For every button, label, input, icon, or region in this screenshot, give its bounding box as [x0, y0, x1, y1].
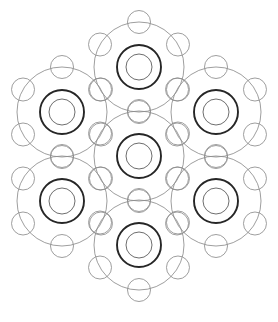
circle-pattern-figure — [0, 0, 278, 322]
artwork-container — [0, 0, 278, 322]
